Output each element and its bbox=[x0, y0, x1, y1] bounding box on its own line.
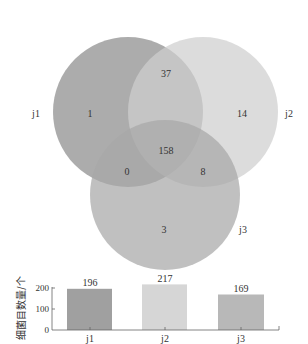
venn-count-j3-only: 3 bbox=[162, 224, 167, 235]
venn-count-j1-j3: 0 bbox=[125, 166, 130, 177]
y-tick-label-0: 0 bbox=[45, 325, 50, 335]
figure: j1 j2 j3 1 14 3 37 0 8 158 细菌目数量/个 196 2… bbox=[0, 0, 308, 344]
venn-count-j1-j2: 37 bbox=[161, 68, 171, 79]
venn-set-label-j2: j2 bbox=[284, 108, 293, 119]
venn-diagram: j1 j2 j3 1 14 3 37 0 8 158 bbox=[31, 37, 293, 270]
bar-j3 bbox=[218, 295, 264, 331]
bar-j1 bbox=[67, 289, 112, 330]
bar-j2 bbox=[142, 284, 187, 330]
venn-set-label-j1: j1 bbox=[31, 108, 40, 119]
venn-circle-j3 bbox=[90, 120, 240, 270]
bar-value-j1: 196 bbox=[83, 277, 98, 288]
venn-count-j1-only: 1 bbox=[88, 108, 93, 119]
y-tick-label-100: 100 bbox=[36, 304, 50, 314]
x-category-label-j2: j2 bbox=[160, 333, 169, 344]
bar-value-j2: 217 bbox=[158, 273, 173, 284]
bar-value-j3: 169 bbox=[234, 283, 249, 294]
x-category-label-j3: j3 bbox=[236, 333, 245, 344]
y-tick-label-200: 200 bbox=[36, 283, 50, 293]
venn-count-j2-only: 14 bbox=[237, 108, 247, 119]
y-axis-label: 细菌目数量/个 bbox=[15, 276, 27, 339]
venn-count-all: 158 bbox=[159, 145, 174, 156]
x-category-label-j1: j1 bbox=[85, 333, 94, 344]
bar-chart: 细菌目数量/个 196 217 169 200 100 0 j1 j2 bbox=[15, 273, 279, 344]
chart-canvas: j1 j2 j3 1 14 3 37 0 8 158 细菌目数量/个 196 2… bbox=[0, 0, 308, 344]
venn-set-label-j3: j3 bbox=[238, 224, 247, 235]
venn-count-j2-j3: 8 bbox=[201, 166, 206, 177]
